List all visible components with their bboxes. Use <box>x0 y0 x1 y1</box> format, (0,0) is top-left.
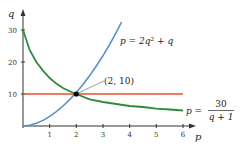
x-tick-label: 3 <box>101 131 105 139</box>
y-tick-label: 30 <box>8 27 17 35</box>
demand-equation-lhs: p = <box>186 106 202 116</box>
intersection-label: (2, 10) <box>104 76 134 86</box>
y-axis-arrow-icon <box>21 9 26 16</box>
x-axis-label: p <box>195 131 202 142</box>
y-ticks: 10 20 30 <box>8 27 25 99</box>
supply-equation: p = 2q² + q <box>120 36 173 46</box>
annotation-leader <box>78 81 104 93</box>
supply-curve <box>23 22 122 126</box>
demand-equation-numerator: 30 <box>215 99 227 109</box>
intersection-point <box>74 91 79 96</box>
y-axis-label: q <box>8 8 14 19</box>
y-tick-label: 10 <box>8 91 17 99</box>
demand-equation-denominator: q + 1 <box>209 112 234 122</box>
x-tick-label: 1 <box>47 131 51 139</box>
x-tick-label: 2 <box>74 131 78 139</box>
chart: 1 2 3 4 5 6 10 20 30 q p (2, 10) p = 2q²… <box>0 0 241 149</box>
y-tick-label: 20 <box>8 59 17 67</box>
x-tick-label: 5 <box>154 131 158 139</box>
x-tick-label: 4 <box>127 131 132 139</box>
x-axis-arrow-icon <box>189 124 196 129</box>
x-tick-label: 6 <box>181 131 186 139</box>
